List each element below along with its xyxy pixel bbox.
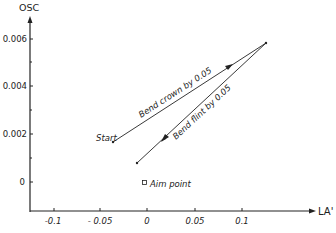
aim-point-marker: [143, 181, 147, 185]
x-axis-label: LA': [318, 206, 333, 217]
x-tick-label: 0.05: [186, 216, 205, 226]
y-tick-label: 0.004: [3, 81, 27, 91]
x-axis-arrow-icon: [309, 209, 316, 214]
chart: 0.006 0.004 0.002 0 -0.1 - 0.05 0 0.05 0…: [0, 0, 336, 233]
x-tick-label: -0.1: [45, 216, 62, 226]
y-axis-arrow-icon: [28, 16, 33, 23]
y-axis-label: OSC: [19, 2, 40, 13]
y-tick-label: 0.002: [3, 129, 27, 139]
end-point: [136, 162, 138, 164]
x-tick-label: 0: [144, 216, 149, 226]
x-tick-label: 0.1: [235, 216, 249, 226]
x-tick-label: - 0.05: [88, 216, 113, 226]
arrow-icon: [161, 134, 169, 142]
y-tick-label: 0.006: [3, 34, 27, 44]
aim-point-label: Aim point: [149, 179, 192, 189]
peak-point: [265, 42, 267, 44]
start-label: Start: [96, 133, 117, 143]
y-tick-label: 0: [20, 177, 25, 187]
